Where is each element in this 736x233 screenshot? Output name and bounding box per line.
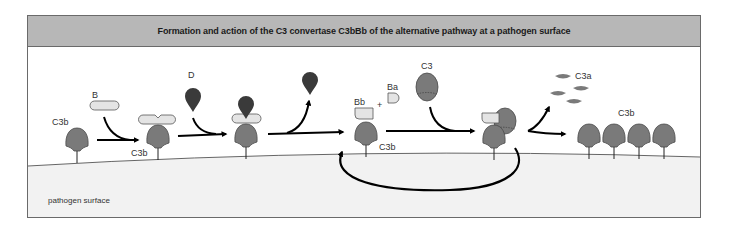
- factor-b: B: [90, 90, 119, 110]
- c3bbb-convertase: Bb C3b: [354, 97, 396, 157]
- plus-sign: +: [377, 100, 382, 110]
- c3-label: C3: [421, 61, 433, 71]
- b-label: B: [92, 90, 98, 100]
- c3b-b-complex: C3b: [131, 115, 176, 160]
- arrow-d-join: [193, 118, 216, 134]
- c3-molecule: C3: [416, 61, 438, 101]
- c3b-initial: C3b: [52, 117, 88, 163]
- c3b-cluster: C3b: [578, 108, 675, 159]
- ba-label: Ba: [387, 82, 398, 92]
- c3bbb-c3-complex: [482, 108, 516, 160]
- pathogen-surface-label: pathogen surface: [48, 196, 110, 205]
- arrow-convertase-formation: [268, 132, 343, 134]
- pathway-diagram: C3b B C3b D Bb C3b +: [0, 0, 736, 233]
- bb-label: Bb: [354, 97, 365, 107]
- c3a-fragments: C3a: [550, 71, 592, 104]
- factor-d-released: [302, 72, 318, 95]
- arrow-c3b-deposit: [528, 131, 565, 134]
- c3b-b-d-complex: [232, 96, 261, 159]
- factor-d: D: [185, 70, 201, 112]
- c3b-label-1: C3b: [52, 117, 69, 127]
- fragment-ba: Ba: [387, 82, 399, 103]
- d-label: D: [188, 70, 195, 80]
- c3b-cluster-label: C3b: [618, 108, 635, 118]
- c3a-label: C3a: [575, 71, 592, 81]
- arrow-b-join: [104, 117, 130, 140]
- arrow-c3-join: [430, 107, 455, 131]
- arrow-d-release: [287, 101, 309, 133]
- c3b-label-2: C3b: [131, 148, 148, 158]
- arrow-d-binding: [178, 134, 226, 136]
- c3b-label-3: C3b: [379, 142, 396, 152]
- pathogen-surface: [28, 153, 700, 217]
- arrow-c3a-release: [528, 107, 549, 131]
